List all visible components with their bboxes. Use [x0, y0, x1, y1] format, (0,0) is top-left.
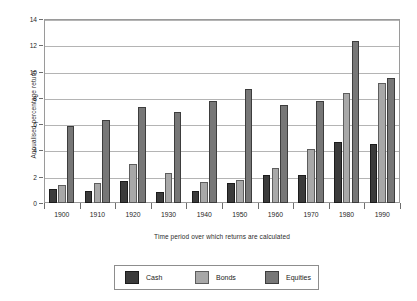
y-axis-tick-mark	[39, 72, 43, 73]
x-axis-tick-label: 1950	[220, 211, 260, 218]
bar-equities-1930	[174, 112, 182, 203]
bar-cash-1990	[370, 144, 378, 203]
bar-equities-1980	[352, 41, 360, 203]
bar-group	[222, 19, 258, 203]
y-axis-tick-label: 2	[17, 173, 37, 180]
x-axis-tick-mark	[258, 203, 259, 209]
bar-group	[186, 19, 222, 203]
bar-group	[115, 19, 151, 203]
bar-equities-1900	[67, 126, 75, 203]
chart-legend: CashBondsEquities	[114, 265, 319, 290]
legend-item-equities: Equities	[265, 266, 311, 289]
bar-equities-1970	[316, 101, 324, 204]
x-axis-tick-mark	[293, 203, 294, 209]
legend-label: Bonds	[216, 274, 236, 281]
bar-cash-1960	[263, 175, 271, 203]
x-axis-tick-mark	[400, 203, 401, 209]
x-axis-tick-mark	[80, 203, 81, 209]
y-axis-tick-label: 14	[17, 16, 37, 23]
bar-equities-1940	[209, 101, 217, 204]
x-axis-tick-mark	[364, 203, 365, 209]
bar-bonds-1900	[58, 185, 66, 203]
bar-bonds-1920	[129, 164, 137, 203]
y-axis-tick-label: 0	[17, 200, 37, 207]
bar-cash-1940	[192, 191, 200, 203]
x-axis-tick-label: 1930	[149, 211, 189, 218]
bar-bonds-1910	[94, 183, 102, 203]
x-axis-tick-mark	[186, 203, 187, 209]
x-axis-tick-mark	[115, 203, 116, 209]
bar-cash-1900	[49, 189, 57, 203]
bar-cash-1980	[334, 142, 342, 203]
bar-cash-1930	[156, 192, 164, 203]
bar-cash-1910	[85, 191, 93, 203]
bar-group	[293, 19, 329, 203]
x-axis-title: Time period over which returns are calcu…	[44, 233, 400, 240]
bar-bonds-1940	[200, 182, 208, 203]
y-axis-tick-mark	[39, 124, 43, 125]
bar-cash-1970	[298, 175, 306, 203]
bar-equities-1950	[245, 89, 253, 203]
bar-equities-1990	[387, 78, 395, 203]
x-axis-tick-label: 1990	[362, 211, 402, 218]
x-axis-tick-label: 1940	[184, 211, 224, 218]
bar-chart: Annualised percentage return 02468101214…	[0, 0, 417, 301]
bar-bonds-1980	[343, 93, 351, 203]
y-axis-tick-label: 6	[17, 121, 37, 128]
legend-label: Equities	[286, 274, 311, 281]
y-axis-tick-mark	[39, 45, 43, 46]
y-axis-tick-mark	[39, 19, 43, 20]
bar-group	[258, 19, 294, 203]
x-axis-tick-mark	[329, 203, 330, 209]
legend-swatch-equities-icon	[265, 271, 279, 284]
y-axis-tick-mark	[39, 177, 43, 178]
bar-equities-1920	[138, 107, 146, 203]
legend-swatch-cash-icon	[125, 271, 139, 284]
bar-bonds-1970	[307, 149, 315, 203]
bar-group	[151, 19, 187, 203]
x-axis-tick-label: 1960	[255, 211, 295, 218]
y-axis-tick-mark	[39, 150, 43, 151]
y-axis-tick-label: 12	[17, 42, 37, 49]
legend-item-cash: Cash	[125, 266, 162, 289]
y-axis-tick-label: 8	[17, 94, 37, 101]
x-axis-tick-label: 1920	[113, 211, 153, 218]
bar-equities-1910	[102, 120, 110, 203]
bar-cash-1920	[120, 181, 128, 203]
x-axis-tick-mark	[151, 203, 152, 209]
bar-group	[364, 19, 400, 203]
x-axis-tick-mark	[222, 203, 223, 209]
bar-bonds-1930	[165, 173, 173, 203]
x-axis-tick-label: 1900	[42, 211, 82, 218]
legend-item-bonds: Bonds	[195, 266, 236, 289]
x-axis-tick-mark	[44, 203, 45, 209]
bar-equities-1960	[280, 105, 288, 203]
legend-swatch-bonds-icon	[195, 271, 209, 284]
legend-label: Cash	[146, 274, 162, 281]
y-axis-tick-mark	[39, 203, 43, 204]
bar-group	[329, 19, 365, 203]
bar-bonds-1960	[272, 168, 280, 203]
bar-group	[80, 19, 116, 203]
y-axis-tick-label: 10	[17, 68, 37, 75]
bar-bonds-1950	[236, 180, 244, 203]
x-axis-tick-label: 1980	[327, 211, 367, 218]
y-axis-tick-label: 4	[17, 147, 37, 154]
x-axis-tick-label: 1910	[77, 211, 117, 218]
y-axis-tick-mark	[39, 98, 43, 99]
bar-cash-1950	[227, 183, 235, 203]
x-axis-tick-label: 1970	[291, 211, 331, 218]
bar-group	[44, 19, 80, 203]
bar-bonds-1990	[378, 83, 386, 203]
bar-series-layer	[44, 19, 400, 203]
